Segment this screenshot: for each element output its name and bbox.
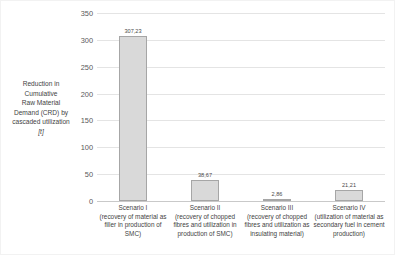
y-axis-tick-label: 350 — [81, 9, 93, 18]
bar[interactable] — [335, 190, 363, 201]
y-axis-unit: [t] — [38, 128, 44, 135]
y-axis-tick-label: 200 — [81, 89, 93, 98]
category-name: Scenario III — [241, 204, 313, 213]
bar-value-label: 21,21 — [342, 182, 356, 188]
bar[interactable] — [119, 36, 147, 201]
x-axis-category-label: Scenario IV(utilization of material as s… — [313, 204, 385, 238]
bar-slot: 38,67 — [169, 13, 241, 201]
x-axis-category-label: Scenario III(recovery of chopped fibres … — [241, 204, 313, 238]
bar-series: 307,2338,672,8621,21 — [97, 13, 385, 201]
bar-value-label: 38,67 — [198, 172, 212, 178]
category-description: (recovery of chopped fibres and utilizat… — [241, 213, 313, 239]
y-axis-tick-label: 50 — [85, 170, 93, 179]
bar-chart: Reduction in Cumulative Raw Material Dem… — [0, 0, 395, 255]
x-axis-category-label: Scenario I(recovery of material as fille… — [97, 204, 169, 238]
bar-value-label: 307,23 — [124, 28, 141, 34]
gridline — [97, 201, 385, 202]
y-axis-title-line-4: Demand (CRD) by — [14, 109, 68, 116]
x-axis-category-label: Scenario II(recovery of chopped fibres a… — [169, 204, 241, 238]
y-axis-title-line-2: Cumulative — [25, 90, 58, 97]
y-axis-title-line-3: Raw Material — [22, 99, 60, 106]
category-description: (utilization of material as secondary fu… — [313, 213, 385, 239]
x-axis-category-labels: Scenario I(recovery of material as fille… — [97, 204, 385, 254]
bar-value-label: 2,86 — [272, 191, 283, 197]
y-axis-tick-label: 250 — [81, 62, 93, 71]
category-description: (recovery of material as filler in produ… — [97, 213, 169, 239]
bar-slot: 2,86 — [241, 13, 313, 201]
bar[interactable] — [263, 199, 291, 201]
y-axis-tick-label: 100 — [81, 143, 93, 152]
bar-slot: 21,21 — [313, 13, 385, 201]
category-name: Scenario I — [97, 204, 169, 213]
y-axis-tick-label: 0 — [89, 197, 93, 206]
bar-slot: 307,23 — [97, 13, 169, 201]
y-axis-title: Reduction in Cumulative Raw Material Dem… — [3, 79, 79, 137]
category-description: (recovery of chopped fibres and utilizat… — [169, 213, 241, 239]
bar[interactable] — [191, 180, 219, 201]
y-axis-title-line-1: Reduction in — [23, 80, 60, 87]
y-axis-tick-label: 300 — [81, 35, 93, 44]
category-name: Scenario IV — [313, 204, 385, 213]
plot-area: 050100150200250300350 307,2338,672,8621,… — [97, 13, 385, 201]
y-axis-title-line-5: cascaded utilization — [12, 118, 70, 125]
y-axis-tick-label: 150 — [81, 116, 93, 125]
category-name: Scenario II — [169, 204, 241, 213]
